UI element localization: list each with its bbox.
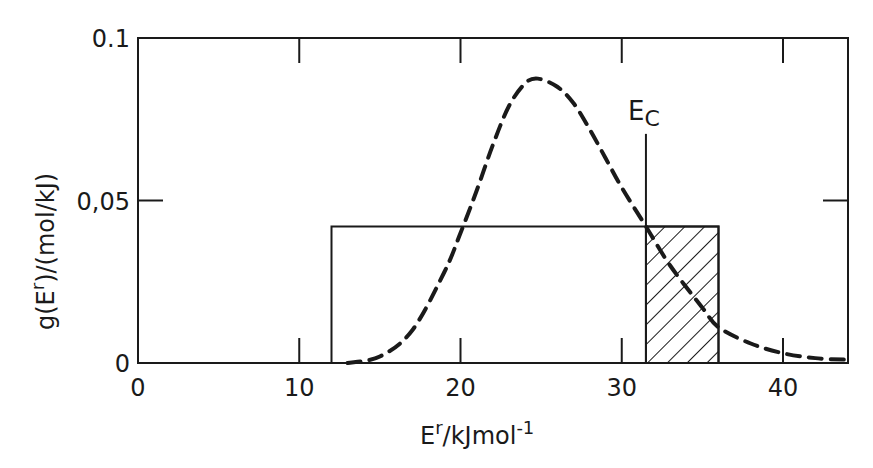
y-tick-label: 0.1 (92, 25, 130, 53)
x-tick-label: 30 (606, 374, 637, 402)
y-axis-label: g(Er)/(mol/kJ) (27, 173, 60, 330)
y-tick-label: 0,05 (77, 188, 130, 216)
plot-frame (138, 38, 848, 363)
y-tick-label: 0 (115, 350, 130, 378)
axis-ticks (138, 38, 848, 363)
chart: 01020304000,050.1 EC Er/kJmol-1 g(Er)/(m… (0, 0, 873, 468)
ec-label: EC (628, 96, 660, 131)
x-axis-label: Er/kJmol-1 (420, 417, 534, 450)
dashed-distribution-curve (348, 78, 848, 363)
x-tick-label: 20 (445, 374, 476, 402)
x-tick-label: 10 (284, 374, 315, 402)
x-tick-label: 0 (130, 374, 145, 402)
x-tick-label: 40 (768, 374, 799, 402)
axes-box (138, 38, 848, 363)
